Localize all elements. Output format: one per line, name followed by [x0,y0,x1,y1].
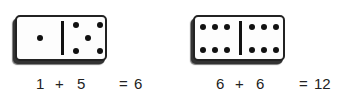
pip [261,24,267,30]
addend-a: 6 [216,75,224,92]
pip [273,47,279,53]
sum-result: 6 [134,75,142,92]
domino-1-5 [15,15,107,61]
pip [200,47,206,53]
addend-b: 6 [256,75,264,92]
equals-sign: = [299,75,308,92]
pip [261,47,267,53]
pip [249,24,255,30]
pip [200,24,206,30]
sum-result: 12 [314,75,331,92]
addend-a: 1 [36,75,44,92]
domino-6-6 [193,15,285,61]
addend-b: 5 [77,75,85,92]
pip [212,24,218,30]
domino-divider [61,21,64,55]
plus-sign: + [235,75,244,92]
equals-sign: = [119,75,128,92]
pip [273,24,279,30]
pip [85,35,91,41]
pip [73,48,79,54]
domino-divider [239,21,242,55]
plus-sign: + [55,75,64,92]
pip [37,35,43,41]
pip [212,47,218,53]
pip [97,48,103,54]
pip [224,24,230,30]
pip [73,22,79,28]
pip [224,47,230,53]
pip [249,47,255,53]
pip [97,22,103,28]
